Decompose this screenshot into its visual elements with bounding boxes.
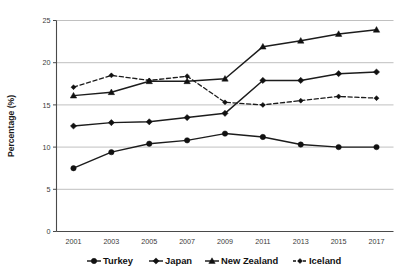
series-turkey bbox=[71, 131, 379, 171]
chart-legend: TurkeyJapanNew ZealandIceland bbox=[87, 255, 342, 266]
data-point-marker bbox=[260, 134, 265, 139]
y-tick-label: 20 bbox=[43, 58, 51, 67]
y-tick-label: 25 bbox=[43, 16, 51, 25]
data-point-marker bbox=[71, 166, 76, 171]
y-axis-title: Percentage (%) bbox=[6, 95, 16, 157]
x-tick-label: 2013 bbox=[293, 237, 309, 246]
legend-label: New Zealand bbox=[221, 255, 279, 266]
data-point-marker bbox=[70, 123, 76, 129]
data-point-marker bbox=[336, 71, 342, 77]
line-chart: 0510152025 20012003200520072009201120132… bbox=[0, 0, 420, 279]
legend-item-japan[interactable]: Japan bbox=[149, 255, 192, 266]
data-point-marker bbox=[184, 114, 190, 120]
data-point-marker bbox=[374, 144, 379, 149]
legend-label: Turkey bbox=[103, 255, 134, 266]
data-point-marker bbox=[374, 96, 379, 101]
y-tick-label: 5 bbox=[47, 185, 51, 194]
x-tick-label: 2007 bbox=[179, 237, 195, 246]
series-layer bbox=[70, 27, 379, 171]
legend-item-iceland[interactable]: Iceland bbox=[293, 255, 342, 266]
x-tick-label: 2009 bbox=[217, 237, 233, 246]
data-point-marker bbox=[153, 258, 159, 264]
y-tick-label: 0 bbox=[47, 227, 51, 236]
data-point-marker bbox=[336, 144, 341, 149]
legend-label: Iceland bbox=[309, 255, 342, 266]
legend-item-turkey[interactable]: Turkey bbox=[87, 255, 134, 266]
data-point-marker bbox=[71, 85, 76, 90]
data-point-marker bbox=[260, 102, 265, 107]
data-point-marker bbox=[109, 149, 114, 154]
data-point-marker bbox=[146, 119, 152, 125]
data-point-marker bbox=[298, 77, 304, 83]
series-path bbox=[74, 134, 377, 169]
x-tick-label: 2015 bbox=[331, 237, 347, 246]
y-axis-ticks: 0510152025 bbox=[43, 16, 57, 236]
data-point-marker bbox=[222, 131, 227, 136]
data-point-marker bbox=[147, 141, 152, 146]
x-axis-ticks: 200120032005200720092011201320152017 bbox=[66, 237, 385, 246]
legend-item-new-zealand[interactable]: New Zealand bbox=[205, 255, 279, 266]
data-point-marker bbox=[109, 73, 114, 78]
x-tick-label: 2001 bbox=[66, 237, 82, 246]
data-point-marker bbox=[91, 258, 96, 263]
data-point-marker bbox=[336, 94, 341, 99]
data-point-marker bbox=[373, 69, 379, 75]
data-point-marker bbox=[298, 259, 303, 264]
data-point-marker bbox=[298, 142, 303, 147]
chart-svg: 0510152025 20012003200520072009201120132… bbox=[0, 0, 420, 279]
y-tick-label: 15 bbox=[43, 101, 51, 110]
legend-label: Japan bbox=[165, 255, 192, 266]
y-tick-label: 10 bbox=[43, 143, 51, 152]
x-tick-label: 2011 bbox=[255, 237, 270, 246]
x-tick-label: 2017 bbox=[369, 237, 385, 246]
data-point-marker bbox=[298, 98, 303, 103]
data-point-marker bbox=[184, 138, 189, 143]
data-point-marker bbox=[108, 120, 114, 126]
x-tick-label: 2005 bbox=[141, 237, 157, 246]
x-tick-label: 2003 bbox=[103, 237, 119, 246]
